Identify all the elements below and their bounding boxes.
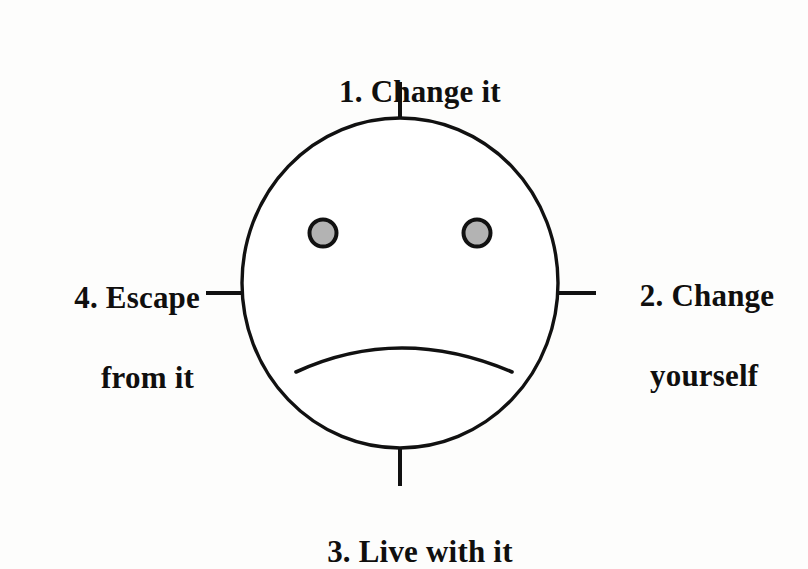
right-eye-icon xyxy=(464,220,491,247)
label-escape-from-it-line2: from it xyxy=(14,358,200,398)
label-change-yourself: 2. Change yourself xyxy=(608,236,800,476)
label-live-with-it-text: 3. Live with it xyxy=(327,534,513,569)
label-change-it-text: 1. Change it xyxy=(339,74,501,109)
label-change-yourself-line2: yourself xyxy=(608,356,800,396)
face-outline xyxy=(242,118,558,448)
diagram-canvas: 1. Change it 2. Change yourself 3. Live … xyxy=(0,0,808,569)
left-eye-icon xyxy=(310,220,337,247)
label-live-with-it: 3. Live with it xyxy=(0,492,808,569)
label-change-it: 1. Change it xyxy=(0,32,808,152)
label-escape-from-it: 4. Escape from it xyxy=(14,238,200,478)
label-escape-from-it-line1: 4. Escape xyxy=(74,280,200,315)
label-change-yourself-line1: 2. Change xyxy=(640,278,774,313)
